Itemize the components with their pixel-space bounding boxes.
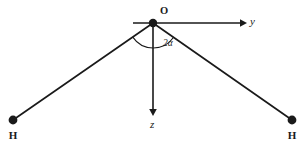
hydrogen-left-label: H (9, 129, 18, 141)
hydrogen-right-dot (288, 116, 297, 125)
y-axis-label: y (249, 15, 255, 27)
oxygen-atom-dot (149, 19, 157, 27)
bond-angle-label: 2α (163, 38, 174, 48)
molecular-geometry-diagram: y z 2α O H H (0, 0, 305, 143)
origin-label: O (160, 5, 168, 16)
hydrogen-right-label: H (288, 129, 297, 141)
figure-container: y z 2α O H H (0, 0, 305, 143)
z-axis-label: z (149, 118, 155, 130)
hydrogen-left-dot (9, 116, 18, 125)
